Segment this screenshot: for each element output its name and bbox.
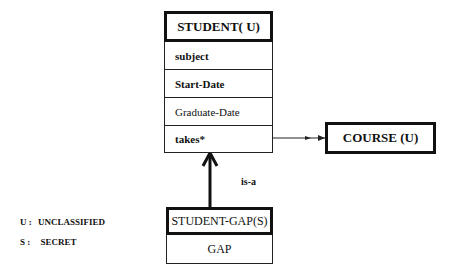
legend-unclassified: U : UNCLASSIFIED bbox=[20, 217, 105, 227]
course-class[interactable]: COURSE (U) bbox=[325, 122, 436, 154]
attribute-subject: subject bbox=[164, 42, 273, 70]
student-class-title: STUDENT( U) bbox=[164, 11, 273, 42]
attribute-takes: takes* bbox=[164, 126, 273, 153]
legend-key: U : bbox=[20, 217, 32, 227]
legend-value: UNCLASSIFIED bbox=[38, 217, 105, 227]
legend-key: S : bbox=[20, 237, 30, 247]
student-class[interactable]: STUDENT( U) subject Start-Date Graduate-… bbox=[164, 11, 273, 153]
student-gap-class-title: STUDENT-GAP(S) bbox=[166, 207, 273, 235]
attribute-gap: GAP bbox=[166, 235, 273, 264]
isa-label: is-a bbox=[241, 176, 256, 187]
course-class-title: COURSE (U) bbox=[325, 122, 436, 154]
student-gap-class[interactable]: STUDENT-GAP(S) GAP bbox=[166, 207, 273, 264]
legend-value: SECRET bbox=[41, 237, 77, 247]
attribute-graduate-date: Graduate-Date bbox=[164, 98, 273, 126]
attribute-start-date: Start-Date bbox=[164, 70, 273, 98]
legend-secret: S : SECRET bbox=[20, 237, 77, 247]
